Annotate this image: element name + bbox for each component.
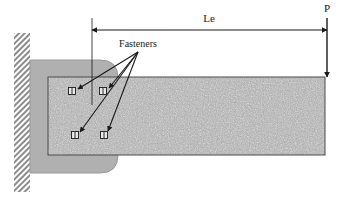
fastener-bottom-right	[101, 132, 108, 139]
wall-support	[14, 33, 30, 192]
fastener-bottom-left	[72, 132, 79, 139]
fastener-top-right	[100, 88, 107, 95]
fastener-diagram: Le P Fasteners	[0, 0, 339, 211]
diagram-canvas: Le P Fasteners	[0, 0, 339, 211]
fasteners-label: Fasteners	[119, 38, 157, 49]
wall-hatch-rect	[14, 33, 30, 192]
load-arrow-p: P	[324, 2, 330, 77]
plate-tint	[48, 77, 325, 155]
load-label-p: P	[324, 2, 330, 14]
dimension-le-label: Le	[203, 12, 215, 24]
plate-beam	[48, 77, 325, 155]
dimension-le: Le	[92, 12, 327, 30]
fastener-top-left	[69, 88, 76, 95]
